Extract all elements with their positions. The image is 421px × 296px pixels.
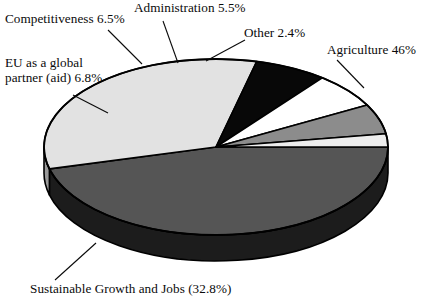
slice-label-agriculture: Agriculture 46% <box>327 43 416 57</box>
slice-label-sustainable-growth: Sustainable Growth and Jobs (32.8%) <box>30 282 231 296</box>
pie-top-faces <box>44 59 388 235</box>
leader-line-competitiveness <box>108 30 142 64</box>
leader-line-agriculture <box>337 60 364 88</box>
slice-label-competitiveness: Competitiveness 6.5% <box>5 12 125 26</box>
slice-label-other: Other 2.4% <box>244 26 305 40</box>
leader-line-other <box>206 40 245 61</box>
leader-line-administration <box>163 21 178 63</box>
slice-label-administration: Administration 5.5% <box>134 1 246 15</box>
slice-label-eu-global-partner: EU as a global partner (aid) 6.8% <box>5 56 111 85</box>
leader-line-sustainable <box>55 243 96 280</box>
